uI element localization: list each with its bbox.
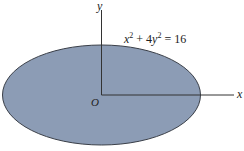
y-axis-label: y	[96, 0, 103, 13]
x-axis-label: x	[236, 87, 243, 101]
ellipse-figure: y x O x2 + 4y2 = 16	[0, 0, 244, 151]
ellipse-equation: x2 + 4y2 = 16	[123, 31, 186, 46]
origin-label: O	[91, 96, 99, 108]
